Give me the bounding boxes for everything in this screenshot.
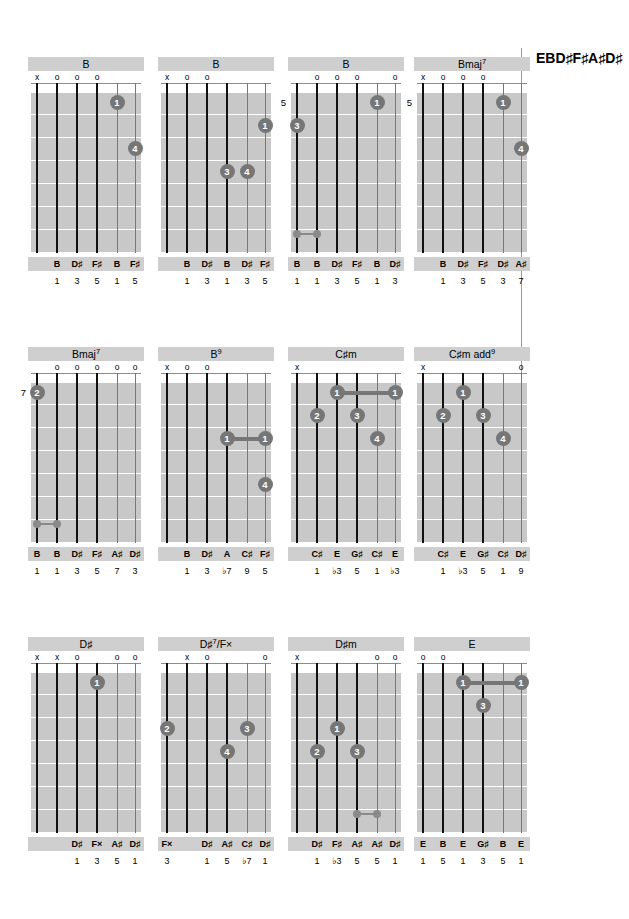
finger-dot[interactable]: 2 [160, 721, 175, 736]
finger-dot[interactable]: 3 [476, 408, 491, 423]
fret-line [161, 786, 271, 787]
fretboard[interactable]: 234 [161, 663, 271, 833]
finger-dot[interactable]: 1 [330, 385, 345, 400]
interval-label: 5 [472, 564, 494, 578]
open-string-icon: o [183, 361, 192, 373]
chord-card[interactable]: C♯mx11234C♯EG♯C♯E1♭351♭3 [288, 347, 404, 578]
chord-card[interactable]: B9xoo114BD♯AC♯F♯13♭795 [158, 347, 274, 578]
muted-string-icon: x [293, 361, 302, 373]
finger-dot[interactable]: 3 [350, 408, 365, 423]
interval-label: 5 [124, 274, 146, 288]
fret-line [31, 381, 141, 383]
open-string-icon: o [373, 651, 382, 663]
finger-dot[interactable]: 2 [310, 408, 325, 423]
fretboard-wrap: 14 [28, 83, 144, 253]
note-name: B [26, 547, 48, 561]
interval-label: ♭3 [326, 564, 348, 578]
finger-dot[interactable]: 4 [128, 141, 143, 156]
guitar-string [422, 663, 424, 833]
finger-dot[interactable]: 1 [220, 431, 235, 446]
finger-dot[interactable]: 2 [310, 744, 325, 759]
fret-line [161, 763, 271, 764]
finger-dot[interactable]: 1 [370, 95, 385, 110]
finger-dot[interactable]: 4 [514, 141, 529, 156]
fretboard[interactable]: 2 [31, 373, 141, 543]
guitar-string [395, 83, 396, 253]
fretboard-wrap: 1234 [414, 373, 530, 543]
note-name: F♯ [326, 837, 348, 851]
open-string-icon: o [353, 71, 362, 83]
interval-label: 1 [66, 854, 88, 868]
chord-card[interactable]: Bxoo134BD♯BD♯F♯13135 [158, 57, 274, 288]
finger-dot[interactable]: 1 [110, 95, 125, 110]
fretboard[interactable]: 14 [31, 83, 141, 253]
fretboard[interactable]: 114 [161, 373, 271, 543]
guitar-string [206, 373, 208, 543]
finger-dot[interactable]: 1 [514, 675, 529, 690]
fret-line [161, 229, 271, 230]
guitar-string [265, 83, 266, 253]
finger-dot[interactable]: 4 [258, 477, 273, 492]
note-name: A [216, 547, 238, 561]
fret-line [161, 740, 271, 741]
muted-string-icon: x [33, 71, 42, 83]
fretboard[interactable]: 1234 [417, 373, 527, 543]
fret-line [161, 542, 271, 543]
fretboard[interactable]: 1 [31, 663, 141, 833]
note-row: BD♯AC♯F♯ [158, 547, 274, 561]
chord-card[interactable]: Boooo531BBD♯F♯BD♯113513 [288, 57, 404, 288]
finger-dot[interactable]: 3 [476, 698, 491, 713]
open-string-icon: o [93, 71, 102, 83]
interval-row: 13135 [158, 274, 274, 288]
fret-line [31, 137, 141, 138]
chord-card[interactable]: Eoo113EBEG♯BE151351 [414, 637, 530, 868]
finger-dot[interactable]: 4 [240, 164, 255, 179]
fretboard[interactable]: 123 [291, 663, 401, 833]
finger-dot[interactable]: 1 [388, 385, 403, 400]
chord-card[interactable]: D♯7/F×xoo234F×D♯A♯C♯D♯315♭71 [158, 637, 274, 868]
interval-label: 1 [306, 274, 328, 288]
finger-dot[interactable]: 1 [496, 95, 511, 110]
guitar-string [482, 663, 484, 833]
interval-label: 3 [66, 274, 88, 288]
finger-dot[interactable]: 2 [436, 408, 451, 423]
guitar-string [296, 373, 298, 543]
fret-line [417, 473, 527, 474]
chord-card[interactable]: Bxooo14BD♯F♯BF♯13515 [28, 57, 144, 288]
fretboard[interactable]: 11234 [291, 373, 401, 543]
muted-string-icon: x [183, 651, 192, 663]
finger-dot[interactable]: 1 [258, 431, 273, 446]
finger-dot[interactable]: 1 [258, 118, 273, 133]
finger-dot[interactable]: 3 [290, 118, 305, 133]
chord-card[interactable]: D♯xxooo1D♯F×A♯D♯1351 [28, 637, 144, 868]
finger-dot[interactable]: 3 [220, 164, 235, 179]
finger-dot[interactable]: 3 [240, 721, 255, 736]
finger-dot[interactable]: 1 [330, 721, 345, 736]
note-name: D♯ [196, 547, 218, 561]
finger-dot[interactable]: 2 [30, 385, 45, 400]
chord-card[interactable]: Bmaj7xooo514BD♯F♯D♯A♯13537 [414, 57, 530, 288]
note-row: BBD♯F♯A♯D♯ [28, 547, 144, 561]
finger-dot[interactable]: 4 [370, 431, 385, 446]
fretboard[interactable]: 134 [161, 83, 271, 253]
interval-row: 13515 [28, 274, 144, 288]
fret-line [291, 542, 401, 543]
fret-line [291, 206, 401, 207]
chord-name: Bmaj7 [414, 57, 530, 71]
fretboard[interactable]: 14 [417, 83, 527, 253]
note-name: B [176, 547, 198, 561]
finger-dot[interactable]: 4 [220, 744, 235, 759]
chord-card[interactable]: D♯mxoo123D♯F♯A♯A♯D♯1♭3551 [288, 637, 404, 868]
fretboard[interactable]: 113 [417, 663, 527, 833]
finger-dot[interactable]: 1 [90, 675, 105, 690]
finger-dot[interactable]: 1 [456, 385, 471, 400]
interval-label: 5 [432, 854, 454, 868]
chord-card[interactable]: Bmaj7ooooo72BBD♯F♯A♯D♯113573 [28, 347, 144, 578]
open-string-icon: o [261, 651, 270, 663]
finger-dot[interactable]: 1 [456, 675, 471, 690]
finger-dot[interactable]: 4 [496, 431, 511, 446]
finger-dot[interactable]: 3 [350, 744, 365, 759]
fretboard[interactable]: 31 [291, 83, 401, 253]
chord-card[interactable]: C♯m add9xo1234C♯EG♯C♯D♯1♭3519 [414, 347, 530, 578]
string-markers: xo [414, 361, 530, 373]
